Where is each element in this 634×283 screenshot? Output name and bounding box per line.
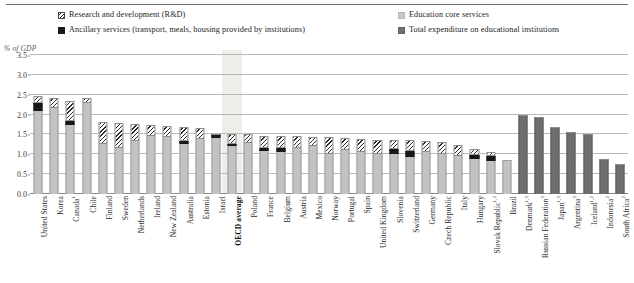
footnote-marker: 1,2 (524, 196, 529, 202)
x-axis-label-chile: Chile (90, 196, 98, 213)
bar[interactable] (405, 140, 414, 194)
bar[interactable] (114, 123, 123, 194)
bar[interactable] (373, 140, 382, 194)
bar-segment-ancillary (34, 103, 43, 111)
bar[interactable] (147, 125, 156, 194)
bar-slot (596, 55, 612, 194)
bar[interactable] (341, 138, 350, 194)
bar[interactable] (292, 136, 301, 194)
bar[interactable] (454, 145, 463, 194)
bar-segment-core (114, 148, 123, 194)
bar-segment-core (98, 144, 107, 194)
bar-slot (369, 55, 385, 194)
bar-segment-core (470, 159, 479, 194)
bar-slot (127, 55, 143, 194)
x-axis-label-iceland: Iceland1,2 (591, 196, 599, 225)
y-axis-tick-0.5: 0.5 (17, 170, 27, 179)
bar[interactable] (518, 115, 527, 194)
bar-segment-core (308, 146, 317, 194)
bar[interactable] (599, 159, 608, 194)
bar-slot (353, 55, 369, 194)
bar-slot (256, 55, 272, 194)
x-axis-label-portugal: Portugal (348, 196, 356, 222)
bar[interactable] (551, 127, 560, 195)
bar-segment-rd (308, 137, 317, 145)
bar[interactable] (535, 117, 544, 194)
bar[interactable] (438, 142, 447, 194)
bar-slot (62, 55, 78, 194)
x-axis-label-slovenia: Slovenia (397, 196, 405, 223)
x-axis-labels: United StatesKoreaCanada1ChileFinlandSwe… (30, 196, 628, 282)
x-axis-label-japan: Japan1,2 (558, 196, 566, 220)
bar[interactable] (470, 149, 479, 194)
x-axis-label-indonesia: Indonesia2 (607, 196, 615, 229)
bar-segment-total (615, 164, 624, 194)
bar[interactable] (324, 137, 333, 194)
x-axis-label-united-states: United States (41, 196, 49, 237)
bar-segment-rd (341, 138, 350, 150)
bar[interactable] (131, 124, 140, 194)
bar-segment-rd (389, 140, 398, 149)
bar[interactable] (308, 137, 317, 194)
bar-segment-core (163, 137, 172, 194)
bar-segment-rd (260, 136, 269, 148)
bar-segment-core (357, 152, 366, 194)
bar[interactable] (276, 136, 285, 194)
bar-slot (418, 55, 434, 194)
bar-slot (466, 55, 482, 194)
x-axis-label-brazil: Brazil (510, 196, 518, 215)
bar[interactable] (244, 134, 253, 194)
bar[interactable] (357, 139, 366, 194)
x-axis-label-netherlands: Netherlands (138, 196, 146, 233)
bar-slot (30, 55, 46, 194)
plot-area: 0.00.51.01.52.02.53.03.5 (30, 55, 628, 194)
legend-swatch-core-icon (398, 12, 405, 19)
bar-segment-core (324, 154, 333, 195)
bar[interactable] (389, 140, 398, 194)
bar-segment-core (147, 136, 156, 194)
bar[interactable] (567, 132, 576, 194)
bar[interactable] (486, 152, 495, 194)
top-divider (6, 4, 628, 5)
bar[interactable] (502, 160, 511, 194)
bar[interactable] (421, 141, 430, 194)
bar-segment-core (211, 138, 220, 194)
bar-slot (111, 55, 127, 194)
bar-segment-rd (357, 139, 366, 152)
bar[interactable] (615, 164, 624, 194)
bar[interactable] (195, 128, 204, 194)
bar-slot (450, 55, 466, 194)
x-axis-label-korea: Korea (57, 196, 65, 215)
y-axis-tick-0.0: 0.0 (17, 190, 27, 199)
legend-swatch-total-icon (398, 27, 405, 34)
x-axis-label-czech-republic: Czech Republic (445, 196, 453, 245)
bar-slot (272, 55, 288, 194)
legend-label-total: Total expenditure on educational institu… (405, 25, 559, 35)
legend-item-total: Total expenditure on educational institu… (398, 25, 559, 35)
bar[interactable] (211, 134, 220, 194)
bar-slot (547, 55, 563, 194)
bar-slot (159, 55, 175, 194)
bar[interactable] (66, 101, 75, 194)
bar[interactable] (260, 136, 269, 194)
bar-segment-core (276, 152, 285, 194)
bar-segment-core (82, 103, 91, 194)
bar[interactable] (98, 122, 107, 194)
bar-segment-rd (373, 140, 382, 155)
bar-segment-core (454, 156, 463, 194)
footnote-marker: 1 (72, 196, 77, 199)
bar-segment-total (518, 115, 527, 194)
bar[interactable] (50, 98, 59, 194)
bar[interactable] (179, 127, 188, 194)
bar[interactable] (34, 96, 43, 194)
x-axis-label-switzerland: Switzerland (413, 196, 421, 233)
bar-segment-core (292, 148, 301, 194)
bar-segment-core (34, 111, 43, 194)
bar[interactable] (82, 98, 91, 195)
x-axis-label-norway: Norway (332, 196, 340, 221)
chart-legend: Research and development (R&D) Ancillary… (0, 10, 634, 42)
bar[interactable] (583, 134, 592, 194)
bar-segment-rd (227, 134, 236, 144)
bar[interactable] (227, 134, 236, 194)
bar[interactable] (163, 126, 172, 194)
